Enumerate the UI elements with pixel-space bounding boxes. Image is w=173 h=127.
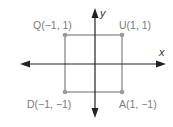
y-axis-down-arrow-icon (92, 108, 99, 118)
point-a (120, 90, 125, 95)
label-u: U(1, 1) (119, 19, 151, 31)
point-u (120, 33, 125, 38)
label-a: A(1, −1) (119, 98, 157, 110)
x-axis-left-arrow-icon (20, 61, 30, 68)
point-d (63, 90, 68, 95)
coordinate-plane: y x Q(−1, 1) U(1, 1) D(−1, −1) A(1, −1) (0, 0, 173, 127)
x-axis-label: x (158, 46, 165, 58)
point-q (63, 33, 68, 38)
label-d: D(−1, −1) (27, 98, 71, 110)
y-axis-up-arrow-icon (92, 8, 99, 18)
x-axis-right-arrow-icon (156, 61, 166, 68)
label-q: Q(−1, 1) (33, 19, 72, 31)
y-axis-label: y (99, 7, 107, 19)
